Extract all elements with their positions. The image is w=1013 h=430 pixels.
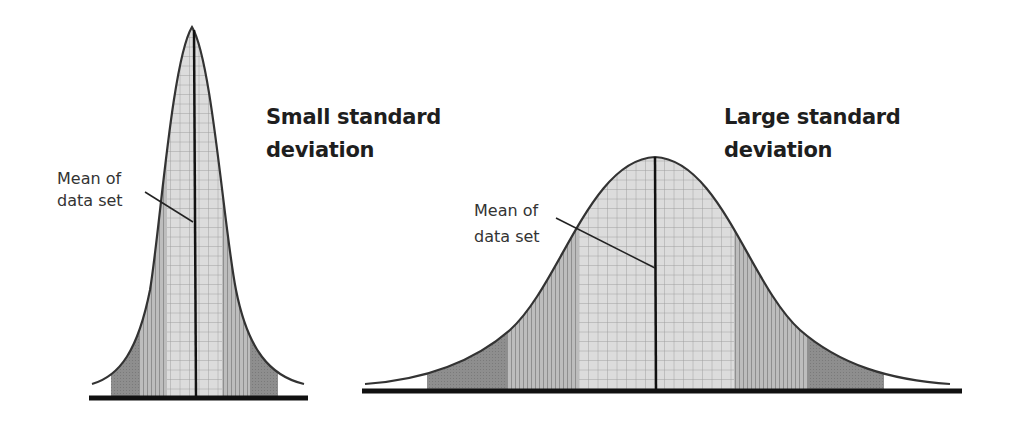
- small-sd-mean-label-line2: data set: [57, 190, 123, 212]
- small-sd-title-line2: deviation: [266, 137, 441, 164]
- large-sd-mean-label-line1: Mean of: [474, 200, 540, 222]
- small-sd-title-line1: Small standard: [266, 104, 441, 131]
- large-sd-mean-label-line2: data set: [474, 226, 540, 248]
- large-sd-title-line1: Large standard: [724, 104, 901, 131]
- large-sd-curve: [362, 150, 962, 395]
- large-sd-title-line2: deviation: [724, 137, 901, 164]
- large-sd-title: Large standard deviation: [724, 104, 901, 164]
- small-sd-title: Small standard deviation: [266, 104, 441, 164]
- small-sd-mean-label: Mean of data set: [57, 168, 123, 212]
- small-sd-mean-label-line1: Mean of: [57, 168, 123, 190]
- large-sd-mean-line: [655, 157, 656, 390]
- large-sd-mean-label: Mean of data set: [474, 200, 540, 248]
